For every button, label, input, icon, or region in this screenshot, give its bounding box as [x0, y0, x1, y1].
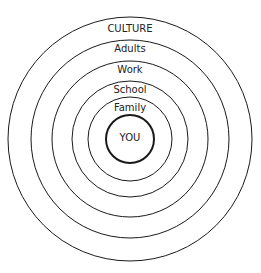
label-adults: Adults: [114, 43, 145, 54]
label-school: School: [113, 84, 146, 95]
label-work: Work: [117, 64, 143, 75]
label-you: YOU: [119, 132, 141, 143]
concentric-circles-diagram: CULTURE Adults Work School Family YOU: [0, 0, 261, 273]
label-culture: CULTURE: [107, 23, 152, 34]
label-family: Family: [114, 102, 146, 113]
